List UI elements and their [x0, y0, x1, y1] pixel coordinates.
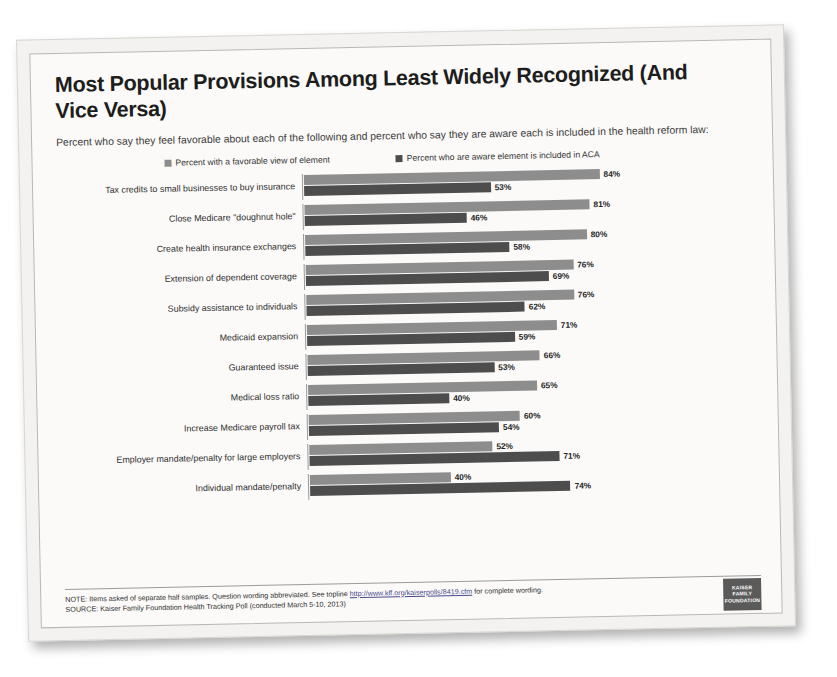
bar-value-aware: 53%: [491, 182, 512, 192]
bar-value-aware: 62%: [525, 301, 546, 311]
slide-card: Most Popular Provisions Among Least Wide…: [29, 39, 782, 629]
footer-note-after-link: for complete wording.: [474, 585, 543, 595]
bar-aware: [308, 393, 449, 406]
bar-aware: [305, 213, 467, 226]
bar-value-favorable: 40%: [451, 472, 472, 482]
bar-value-aware: 74%: [570, 481, 591, 491]
bar-value-aware: 69%: [549, 271, 570, 281]
legend-item-aware: Percent who are aware element is include…: [396, 149, 600, 163]
bar-value-favorable: 52%: [492, 441, 513, 451]
chart-row-bars: 40%74%: [308, 465, 759, 500]
chart-subtitle: Percent who say they feel favorable abou…: [56, 123, 711, 151]
bar-value-favorable: 71%: [557, 320, 578, 330]
slide-content: Most Popular Provisions Among Least Wide…: [55, 58, 762, 617]
chart-row-label: Close Medicare "doughnut hole": [58, 212, 303, 227]
bar-value-favorable: 65%: [537, 380, 558, 390]
chart-row-label: Employer mandate/penalty for large emplo…: [62, 452, 307, 467]
logo-line-3: FOUNDATION: [725, 597, 761, 604]
chart-row-label: Create health insurance exchanges: [58, 242, 303, 257]
bar-value-favorable: 66%: [540, 350, 561, 360]
bar-value-favorable: 81%: [589, 199, 610, 209]
bar-value-aware: 54%: [499, 422, 520, 432]
legend-swatch-favorable-icon: [164, 159, 171, 166]
chart-row-label: Medical loss ratio: [61, 392, 306, 407]
legend-item-favorable: Percent with a favorable view of element: [164, 155, 329, 168]
bar-value-favorable: 80%: [587, 229, 608, 239]
bar-value-favorable: 60%: [520, 411, 541, 421]
chart-row-label: Subsidy assistance to individuals: [59, 302, 304, 317]
bar-value-favorable: 76%: [574, 289, 595, 299]
bar-value-favorable: 84%: [599, 169, 620, 179]
chart-row-label: Increase Medicare payroll tax: [62, 422, 307, 437]
scanned-page: Most Popular Provisions Among Least Wide…: [16, 24, 796, 641]
topline-link[interactable]: http://www.kff.org/kaiserpolls/8419.cfm: [350, 586, 473, 597]
chart-row-label: Guaranteed issue: [61, 362, 306, 377]
page-title: Most Popular Provisions Among Least Wide…: [55, 59, 696, 124]
bar-value-aware: 71%: [559, 451, 580, 461]
bar-value-aware: 46%: [467, 213, 488, 223]
chart-plot-area: Tax credits to small businesses to buy i…: [57, 163, 759, 507]
legend-swatch-aware-icon: [396, 155, 403, 162]
legend-label-aware: Percent who are aware element is include…: [407, 149, 600, 163]
bar-value-aware: 40%: [449, 393, 470, 403]
bar-value-aware: 58%: [509, 242, 530, 252]
bar-value-favorable: 76%: [573, 259, 594, 269]
chart-row-label: Tax credits to small businesses to buy i…: [57, 182, 302, 197]
bar-value-aware: 53%: [494, 362, 515, 372]
legend-label-favorable: Percent with a favorable view of element: [175, 155, 329, 168]
chart-row-label: Medicaid expansion: [60, 332, 305, 347]
chart-row-label: Individual mandate/penalty: [63, 482, 308, 497]
bar-value-aware: 59%: [515, 332, 536, 342]
kaiser-family-foundation-logo: KAISER FAMILY FOUNDATION: [723, 577, 762, 610]
chart-row-label: Extension of dependent coverage: [59, 272, 304, 287]
